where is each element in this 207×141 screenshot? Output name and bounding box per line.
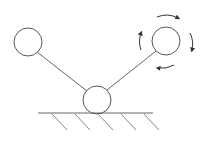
left-link-rod bbox=[37, 52, 87, 91]
pivot-ball bbox=[83, 86, 111, 114]
left-ball bbox=[14, 28, 42, 56]
mechanism-diagram bbox=[0, 0, 207, 141]
right-ball bbox=[152, 27, 180, 55]
right-link-rod bbox=[107, 51, 156, 90]
ground-hatching bbox=[52, 114, 159, 130]
